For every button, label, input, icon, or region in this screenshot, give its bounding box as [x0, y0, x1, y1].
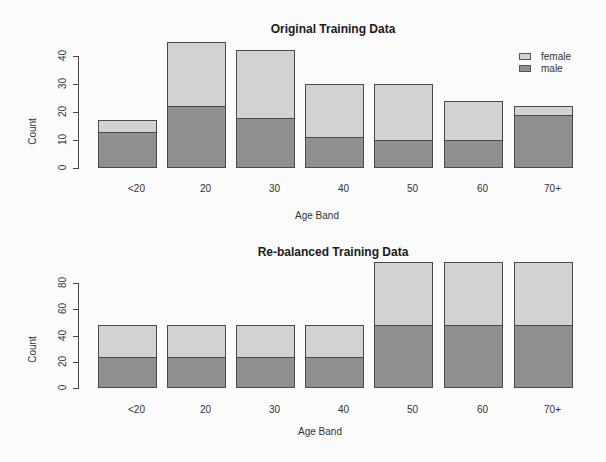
y-tick: [73, 388, 78, 389]
male-segment: [98, 357, 157, 388]
female-segment: [374, 262, 433, 326]
x-axis-label: Age Band: [298, 426, 342, 437]
bar-20: [167, 325, 226, 388]
male-segment: [514, 325, 573, 388]
y-tick-label: 40: [57, 325, 68, 345]
male-segment: [236, 357, 295, 388]
female-segment: [236, 325, 295, 357]
x-tick-label: 70+: [544, 404, 561, 415]
y-tick: [73, 336, 78, 337]
bar-30: [236, 325, 295, 388]
female-segment: [514, 262, 573, 326]
y-tick: [73, 362, 78, 363]
female-segment: [444, 262, 503, 326]
x-tick-label: 50: [407, 404, 418, 415]
y-axis-label: Count: [27, 330, 38, 370]
male-segment: [305, 357, 364, 388]
y-tick-label: 60: [57, 299, 68, 319]
bar-70: [514, 262, 573, 388]
male-segment: [167, 357, 226, 388]
y-tick-label: 20: [57, 351, 68, 371]
chart-title: Re-balanced Training Data: [258, 245, 409, 259]
female-segment: [305, 325, 364, 357]
x-tick-label: 30: [269, 404, 280, 415]
y-tick-label: 0: [57, 378, 68, 398]
bar-60: [444, 262, 503, 388]
bar-50: [374, 262, 433, 388]
x-tick-label: <20: [128, 404, 145, 415]
bar-40: [305, 325, 364, 388]
male-segment: [444, 325, 503, 388]
rebalanced-training-data-chart: Re-balanced Training Data Count Age Band…: [0, 0, 606, 462]
y-axis: [78, 283, 79, 389]
y-tick: [73, 283, 78, 284]
y-tick: [73, 309, 78, 310]
male-segment: [374, 325, 433, 388]
x-tick-label: 20: [200, 404, 211, 415]
bar-20: [98, 325, 157, 388]
female-segment: [98, 325, 157, 357]
female-segment: [167, 325, 226, 357]
x-tick-label: 60: [477, 404, 488, 415]
x-tick-label: 40: [338, 404, 349, 415]
y-tick-label: 80: [57, 273, 68, 293]
